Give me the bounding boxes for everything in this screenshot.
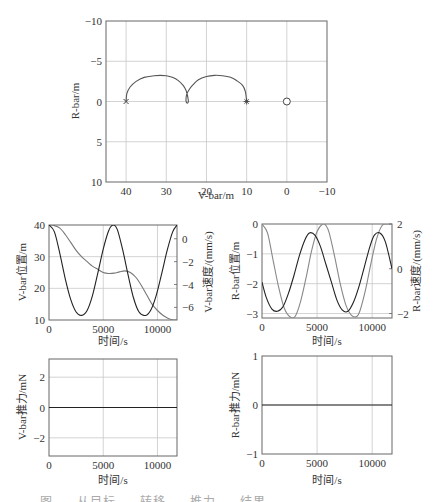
x-tick-label: 0 [259, 321, 265, 333]
rthrust-xlabel: 时间/s [312, 474, 341, 486]
x-tick-label: 10 [241, 185, 253, 197]
vbar-plot: 0500010000102030400−2−4−6 [34, 219, 194, 335]
y-right-tick-label: −2 [182, 256, 194, 268]
y-tick-label: 10 [91, 176, 103, 188]
x-tick-label: 0 [46, 459, 52, 471]
x-tick-label: 10000 [358, 457, 386, 469]
figure-canvas: 403020100−10−10−50510 V-bar/m R-bar/m 05… [0, 0, 439, 502]
y-tick-label: −5 [90, 55, 102, 67]
x-tick-label: −10 [318, 185, 336, 197]
y-tick-label: 0 [253, 218, 259, 230]
trajectory-ylabel: R-bar/m [69, 82, 81, 119]
y-tick-label: 30 [34, 251, 46, 263]
y-tick-label: −1 [246, 248, 258, 260]
y-right-tick-label: 0 [397, 263, 403, 275]
x-tick-label: 30 [161, 185, 173, 197]
figure-caption: 图 ... 从目标 ... 转移 ... 推力 ... 结果 ... [40, 492, 420, 502]
y-right-tick-label: −6 [182, 301, 194, 313]
y-right-tick-label: 2 [397, 218, 403, 230]
y-tick-label: 0 [40, 402, 46, 414]
x-tick-label: 40 [121, 185, 133, 197]
vbar-xlabel: 时间/s [98, 335, 127, 347]
x-tick-label: 10000 [144, 459, 172, 471]
target-marker [283, 98, 290, 105]
y-right-tick-label: −2 [397, 308, 409, 320]
vthrust-xlabel: 时间/s [98, 474, 127, 486]
x-tick-label: 5000 [92, 323, 115, 335]
trajectory-plot: 403020100−10−10−50510 [85, 15, 336, 197]
rbar-ylabel-right: R-bar速度/(mm/s) [409, 230, 423, 312]
y-right-tick-label: 0 [182, 233, 188, 245]
y-tick-label: 10 [34, 314, 46, 326]
y-tick-label: −3 [246, 308, 258, 320]
y-tick-label: 20 [34, 282, 46, 294]
rbar-xlabel: 时间/s [312, 335, 341, 347]
y-tick-label: 0 [97, 96, 103, 108]
x-tick-label: 10000 [144, 323, 172, 335]
y-tick-label: −10 [85, 15, 103, 27]
vthrust-plot: 050001000020−2 [33, 359, 177, 471]
x-tick-label: 10000 [358, 321, 386, 333]
x-tick-label: 0 [284, 185, 290, 197]
rthrust-plot: 050001000010−1 [246, 350, 392, 469]
vbar-ylabel-right: V-bar速度/(mm/s) [201, 231, 215, 313]
y-tick-label: 0 [253, 399, 259, 411]
rbar-plot: 05000100000−1−2−320−2 [246, 218, 408, 333]
x-tick-label: 5000 [306, 321, 329, 333]
y-right-tick-label: −4 [182, 279, 194, 291]
y-tick-label: 1 [253, 350, 259, 362]
end-marker [244, 99, 250, 105]
x-tick-label: 0 [46, 323, 52, 335]
x-tick-label: 0 [259, 457, 265, 469]
rthrust-ylabel: R-bar推力/mN [228, 372, 241, 439]
vthrust-ylabel: V-bar推力/mN [15, 374, 28, 440]
y-tick-label: 2 [40, 371, 46, 383]
y-tick-label: −2 [246, 278, 258, 290]
series-line [126, 75, 247, 103]
vbar-ylabel-left: V-bar位置/m [15, 242, 28, 301]
rbar-ylabel-left: R-bar位置/m [228, 241, 241, 300]
y-tick-label: 5 [97, 136, 103, 148]
y-tick-label: 40 [34, 219, 46, 231]
x-tick-label: 5000 [92, 459, 115, 471]
y-tick-label: −2 [33, 432, 45, 444]
trajectory-xlabel: V-bar/m [198, 189, 235, 201]
x-tick-label: 5000 [306, 457, 329, 469]
y-tick-label: −1 [246, 448, 258, 460]
